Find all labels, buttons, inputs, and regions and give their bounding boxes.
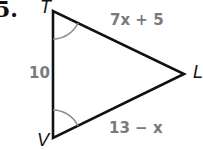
triangle-figure: 5. T V L 10 7x + 5 13 − x bbox=[0, 0, 203, 150]
vertex-label-t: T bbox=[40, 0, 51, 18]
vertex-label-l: L bbox=[193, 62, 203, 83]
side-label-vl: 13 − x bbox=[109, 119, 163, 137]
side-label-tl: 7x + 5 bbox=[110, 11, 164, 29]
vertex-label-v: V bbox=[37, 130, 49, 150]
angle-arc-t bbox=[53, 23, 78, 39]
side-label-tv: 10 bbox=[29, 64, 50, 82]
angle-arc-v bbox=[53, 110, 78, 126]
